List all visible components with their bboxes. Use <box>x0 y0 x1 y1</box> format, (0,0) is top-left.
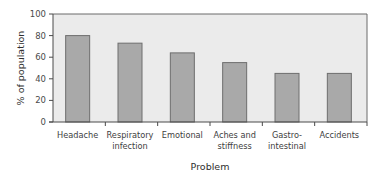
plot-area <box>53 14 367 122</box>
x-category-label: Accidents <box>320 130 360 140</box>
x-category-label: intestinal <box>268 141 306 151</box>
x-category-label: Emotional <box>162 130 203 140</box>
y-tick-label: 100 <box>30 9 46 19</box>
x-category-label: Headache <box>57 130 98 140</box>
x-axis-category-labels: HeadacheRespiratoryinfectionEmotionalAch… <box>57 130 359 151</box>
y-axis-ticks: 020406080100 <box>30 9 53 127</box>
y-tick-label: 60 <box>35 52 46 62</box>
y-tick-label: 0 <box>41 117 46 127</box>
bar-chart: 020406080100 HeadacheRespiratoryinfectio… <box>0 0 384 177</box>
y-axis-title: % of population <box>15 31 26 106</box>
x-category-label: Gastro- <box>272 130 302 140</box>
x-category-label: stiffness <box>218 141 252 151</box>
y-tick-label: 40 <box>35 74 46 84</box>
bar-gastro-intestinal <box>275 73 299 122</box>
x-category-label: infection <box>112 141 148 151</box>
y-tick-label: 80 <box>35 31 46 41</box>
x-category-label: Aches and <box>213 130 255 140</box>
bar-aches-and-stiffness <box>223 63 247 122</box>
y-tick-label: 20 <box>35 95 46 105</box>
x-axis-ticks <box>105 122 367 126</box>
bar-accidents <box>327 73 351 122</box>
bar-respiratory-infection <box>118 43 142 122</box>
bar-headache <box>66 36 90 122</box>
x-axis-title: Problem <box>191 161 230 172</box>
bar-emotional <box>170 53 194 122</box>
x-category-label: Respiratory <box>107 130 154 140</box>
